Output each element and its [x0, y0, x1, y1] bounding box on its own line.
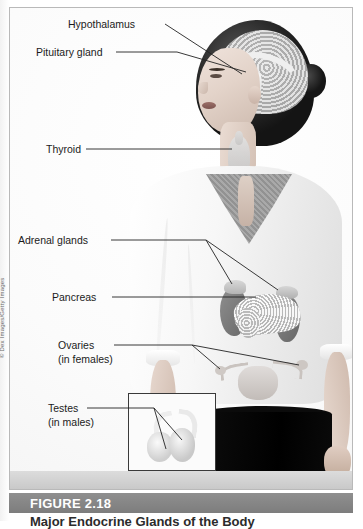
label-pituitary-gland: Pituitary gland — [36, 46, 103, 59]
figure-caption: Major Endocrine Glands of the Body — [30, 514, 350, 529]
label-testes: Testes (in males) — [48, 402, 94, 429]
label-adrenal-glands-text: Adrenal glands — [18, 234, 88, 246]
figure-number-banner: FIGURE 2.18 — [9, 493, 353, 513]
label-ovaries-text: Ovaries — [58, 339, 113, 353]
label-testes-text: Testes — [48, 402, 94, 416]
label-hypothalamus-text: Hypothalamus — [68, 18, 135, 30]
photo-credit: © Dex Images/Getty Images — [0, 278, 5, 358]
page-gutter — [0, 0, 9, 521]
label-pancreas: Pancreas — [52, 291, 96, 304]
label-ovaries-subtext: (in females) — [58, 353, 113, 367]
endocrine-system-photograph: Hypothalamus Pituitary gland Thyroid Adr… — [10, 8, 352, 489]
label-testes-subtext: (in males) — [48, 416, 94, 430]
label-pituitary-gland-text: Pituitary gland — [36, 46, 103, 58]
figure-number-label: FIGURE 2.18 — [30, 496, 111, 511]
label-pancreas-text: Pancreas — [52, 291, 96, 303]
label-hypothalamus: Hypothalamus — [68, 18, 135, 31]
label-thyroid-text: Thyroid — [46, 143, 81, 155]
label-adrenal-glands: Adrenal glands — [18, 234, 88, 247]
label-ovaries: Ovaries (in females) — [58, 339, 113, 366]
figure-frame: Hypothalamus Pituitary gland Thyroid Adr… — [9, 7, 353, 490]
label-thyroid: Thyroid — [46, 143, 81, 156]
